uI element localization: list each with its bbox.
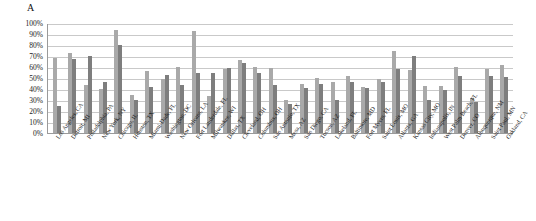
bar — [304, 88, 308, 133]
bar — [72, 59, 76, 133]
y-tick-40%: 40% — [29, 86, 43, 94]
bar-group — [296, 24, 311, 133]
bar — [196, 73, 200, 134]
y-tick-60%: 60% — [29, 64, 43, 72]
y-tick-30%: 30% — [29, 97, 43, 105]
bar — [458, 76, 462, 133]
y-tick-90%: 90% — [29, 31, 43, 39]
panel-label: A — [27, 2, 35, 13]
bar — [88, 56, 92, 133]
y-axis-tick-labels: 0%10%20%30%40%50%60%70%80%90%100% — [0, 18, 45, 140]
y-tick-50%: 50% — [29, 75, 43, 83]
x-axis-tick-labels: Los Angeles, CADetroit, MIPhiladelphia, … — [47, 136, 513, 220]
bar-group — [49, 24, 64, 133]
figure-panel-a: A 0%10%20%30%40%50%60%70%80%90%100% Los … — [0, 0, 536, 221]
y-tick-80%: 80% — [29, 42, 43, 50]
y-tick-20%: 20% — [29, 108, 43, 116]
y-tick-100%: 100% — [26, 20, 44, 28]
bar — [257, 73, 261, 134]
y-tick-70%: 70% — [29, 53, 43, 61]
y-tick-10%: 10% — [29, 119, 43, 127]
bar — [211, 73, 215, 134]
y-tick-0%: 0% — [33, 130, 43, 138]
